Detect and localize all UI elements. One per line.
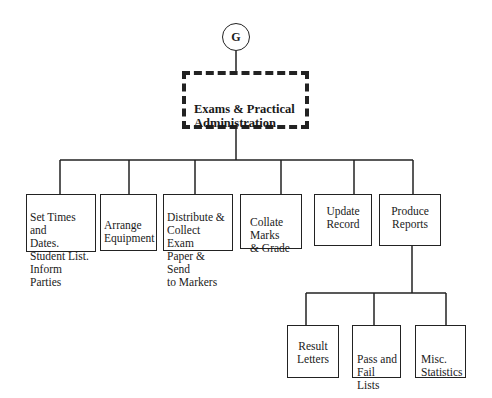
off-page-connector: G <box>222 23 250 51</box>
node-label: Result Letters <box>297 340 329 366</box>
node-set-times: Set Times and Dates. Student List. Infor… <box>26 194 96 252</box>
node-pass-fail-lists: Pass and Fail Lists <box>352 325 401 378</box>
connector-label: G <box>231 30 240 45</box>
node-label: Arrange Equipment <box>104 219 154 244</box>
node-result-letters: Result Letters <box>287 325 339 378</box>
root-node: Exams & Practical Administration <box>182 71 309 129</box>
root-label: Exams & Practical Administration <box>194 102 295 130</box>
hierarchy-diagram: G Exams & Practical Administration Set T… <box>0 0 492 398</box>
node-collate-marks: Collate Marks & Grade <box>240 194 302 249</box>
node-arrange-equipment: Arrange Equipment <box>100 194 157 251</box>
node-label: Produce Reports <box>391 205 429 231</box>
node-label: Misc. Statistics <box>421 353 463 378</box>
node-misc-statistics: Misc. Statistics <box>415 325 466 378</box>
node-label: Distribute & Collect Exam Paper & Send t… <box>167 211 225 288</box>
node-produce-reports: Produce Reports <box>379 194 441 246</box>
node-label: Update Record <box>326 205 359 231</box>
node-update-record: Update Record <box>314 194 372 246</box>
node-distribute-collect: Distribute & Collect Exam Paper & Send t… <box>163 194 233 251</box>
node-label: Collate Marks & Grade <box>250 216 290 254</box>
